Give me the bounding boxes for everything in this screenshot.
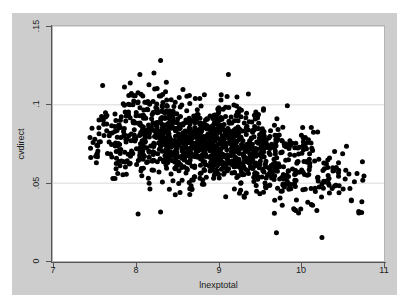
data-point (226, 119, 231, 124)
data-point (262, 170, 267, 175)
data-point (238, 188, 243, 193)
data-point (280, 203, 285, 208)
data-point (244, 149, 249, 154)
data-point (256, 121, 261, 126)
data-point (195, 155, 200, 160)
data-point (262, 154, 267, 159)
data-point (167, 187, 172, 192)
data-point (252, 134, 257, 139)
data-point (223, 105, 228, 110)
data-point (187, 192, 192, 197)
data-point (356, 209, 361, 214)
data-point (337, 183, 342, 188)
data-point (191, 178, 196, 183)
y-axis-title-container: cvdirect (14, 25, 28, 262)
data-point (274, 116, 279, 121)
data-point (326, 173, 331, 178)
data-point (298, 207, 303, 212)
data-point (215, 163, 220, 168)
data-point (146, 82, 151, 87)
data-point (261, 108, 266, 113)
data-point (309, 125, 314, 130)
data-point (272, 123, 277, 128)
data-point (115, 135, 120, 140)
data-point (177, 123, 182, 128)
data-point (244, 124, 249, 129)
data-point (199, 121, 204, 126)
data-point (184, 94, 189, 99)
data-point (243, 115, 248, 120)
data-point (185, 167, 190, 172)
data-point (141, 166, 146, 171)
data-point (320, 168, 325, 173)
y-tick-label-text: .1 (31, 100, 41, 108)
data-point (108, 152, 113, 157)
data-point (252, 171, 257, 176)
data-point (107, 133, 112, 138)
data-point (116, 124, 121, 129)
data-point (336, 160, 341, 165)
x-tick-label: 10 (289, 266, 313, 275)
data-point (226, 166, 231, 171)
data-point (142, 140, 147, 145)
data-point (299, 167, 304, 172)
data-point (149, 116, 154, 121)
data-point (225, 94, 230, 99)
data-point (158, 210, 163, 215)
data-point (121, 101, 126, 106)
data-point (132, 127, 137, 132)
data-point (219, 98, 224, 103)
data-point (170, 122, 175, 127)
data-point (231, 134, 236, 139)
data-point (169, 172, 174, 177)
data-point (170, 178, 175, 183)
data-point (278, 196, 283, 201)
data-point (287, 152, 292, 157)
scatter-plot-figure: cvdirect 0.05.1.15 7891011 lnexptotal (0, 0, 412, 307)
data-point (171, 104, 176, 109)
data-point (344, 144, 349, 149)
data-point (112, 112, 117, 117)
data-point (173, 192, 178, 197)
data-point (123, 164, 128, 169)
data-point (147, 187, 152, 192)
data-point (164, 149, 169, 154)
data-point (286, 169, 291, 174)
data-point (325, 165, 330, 170)
data-point (314, 208, 319, 213)
data-point (307, 161, 312, 166)
data-point (267, 171, 272, 176)
data-point (184, 108, 189, 113)
data-point (239, 142, 244, 147)
data-point (281, 182, 286, 187)
data-point (202, 167, 207, 172)
data-point (107, 140, 112, 145)
data-point (113, 176, 118, 181)
data-point (173, 128, 178, 133)
data-point (126, 93, 131, 98)
data-point (272, 211, 277, 216)
data-point (208, 168, 213, 173)
data-point (292, 178, 297, 183)
data-point (285, 103, 290, 108)
data-point (102, 133, 107, 138)
data-point (263, 164, 268, 169)
data-point (301, 159, 306, 164)
data-point (200, 178, 205, 183)
data-point (220, 126, 225, 131)
data-point (213, 133, 218, 138)
data-point (152, 110, 157, 115)
data-point (214, 168, 219, 173)
data-point (154, 101, 159, 106)
data-point (124, 113, 129, 118)
data-point (169, 158, 174, 163)
data-point (128, 80, 133, 85)
data-point (147, 102, 152, 107)
data-point (125, 137, 130, 142)
data-point (145, 159, 150, 164)
data-point (269, 176, 274, 181)
data-point (231, 164, 236, 169)
data-point (192, 129, 197, 134)
data-point (278, 150, 283, 155)
data-point (150, 143, 155, 148)
